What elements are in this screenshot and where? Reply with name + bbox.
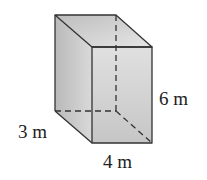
width-label: 4 m (103, 152, 132, 171)
front-face (92, 47, 152, 143)
depth-label: 3 m (18, 122, 47, 141)
height-label: 6 m (159, 89, 188, 108)
